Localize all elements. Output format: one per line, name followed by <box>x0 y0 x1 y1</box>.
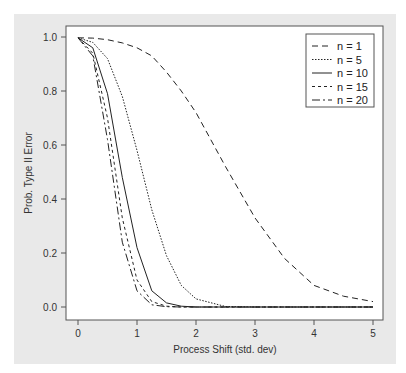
x-axis-title: Process Shift (std. dev) <box>173 344 276 355</box>
y-tick-label: 0.0 <box>43 302 57 313</box>
legend-label: n = 15 <box>337 81 368 93</box>
y-tick-label: 0.6 <box>43 140 57 151</box>
x-tick-label: 3 <box>252 328 258 339</box>
legend-label: n = 10 <box>337 67 368 79</box>
x-tick-label: 0 <box>75 328 81 339</box>
legend-label: n = 5 <box>337 54 362 66</box>
x-tick-label: 4 <box>311 328 317 339</box>
y-tick-label: 0.4 <box>43 194 57 205</box>
legend-label: n = 1 <box>337 40 362 52</box>
y-tick-label: 0.8 <box>43 86 57 97</box>
x-tick-label: 5 <box>370 328 376 339</box>
y-axis-title: Prob. Type II Error <box>23 132 34 214</box>
y-tick-label: 1.0 <box>43 32 57 43</box>
x-tick-label: 1 <box>134 328 140 339</box>
y-tick-label: 0.2 <box>43 248 57 259</box>
legend-label: n = 20 <box>337 94 368 106</box>
x-tick-label: 2 <box>193 328 199 339</box>
legend: n = 1n = 5n = 10n = 15n = 20 <box>306 34 374 107</box>
type-ii-error-chart: 0123450.00.20.40.60.81.0 n = 1n = 5n = 1… <box>0 0 406 373</box>
